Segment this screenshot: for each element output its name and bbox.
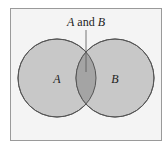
intersection-label: A and B (66, 15, 106, 29)
venn-diagram: A and B A B (0, 0, 168, 150)
set-b-label: B (111, 72, 119, 86)
set-a-label: A (52, 72, 61, 86)
